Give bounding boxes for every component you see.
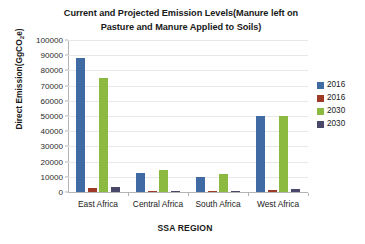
y-axis-tick-mark bbox=[65, 40, 68, 41]
y-axis-title: Direct Emission(GgCO2e) bbox=[14, 4, 24, 154]
x-axis-tick-mark bbox=[248, 193, 249, 196]
y-axis-tick-label: 70000 bbox=[40, 81, 63, 90]
y-axis-tick-mark bbox=[65, 176, 68, 177]
plot-area: 0100002000030000400005000060000700008000… bbox=[68, 40, 308, 193]
y-axis-tick-mark bbox=[65, 161, 68, 162]
x-axis-category-label: Central Africa bbox=[133, 199, 183, 209]
bar bbox=[136, 173, 145, 192]
y-axis-tick-label: 80000 bbox=[40, 66, 63, 75]
x-axis-title: SSA REGION bbox=[60, 223, 310, 233]
bar bbox=[76, 58, 85, 192]
bar bbox=[219, 174, 228, 192]
legend-swatch-icon bbox=[317, 121, 324, 128]
legend-item-label: 2030 bbox=[327, 107, 345, 115]
bar bbox=[231, 191, 240, 192]
legend-item-label: 2016 bbox=[327, 81, 345, 89]
legend-swatch-icon bbox=[317, 95, 324, 102]
y-axis-tick-label: 90000 bbox=[40, 51, 63, 60]
y-axis-tick-label: 60000 bbox=[40, 96, 63, 105]
legend-item-label: 2016 bbox=[327, 94, 345, 102]
chart-legend: 2016201620302030 bbox=[317, 79, 345, 131]
y-axis-tick-mark bbox=[65, 131, 68, 132]
bar-group: West Africa bbox=[256, 40, 300, 192]
y-axis-title-subscript: 2 bbox=[18, 36, 25, 39]
bar bbox=[99, 78, 108, 192]
bar bbox=[148, 191, 157, 192]
legend-item-label: 2030 bbox=[327, 120, 345, 128]
bar bbox=[196, 177, 205, 192]
legend-item[interactable]: 2030 bbox=[317, 118, 345, 131]
bar-group: East Africa bbox=[76, 40, 120, 192]
x-axis-tick-mark bbox=[308, 193, 309, 196]
y-axis-tick-label: 30000 bbox=[40, 142, 63, 151]
legend-item[interactable]: 2030 bbox=[317, 105, 345, 118]
x-axis-category-label: South Africa bbox=[195, 199, 240, 209]
y-axis-tick-mark bbox=[65, 100, 68, 101]
y-axis-tick-mark bbox=[65, 116, 68, 117]
y-axis-tick-label: 50000 bbox=[40, 112, 63, 121]
bar-group: South Africa bbox=[196, 40, 240, 192]
bar-chart: Current and Projected Emission Levels(Ma… bbox=[0, 0, 365, 244]
bar bbox=[159, 170, 168, 192]
y-axis-tick-label: 10000 bbox=[40, 172, 63, 181]
y-axis-tick-mark bbox=[65, 146, 68, 147]
y-axis-title-suffix: e) bbox=[14, 28, 24, 35]
y-axis-tick-label: 40000 bbox=[40, 127, 63, 136]
bar bbox=[291, 189, 300, 192]
y-axis-title-prefix: Direct Emission(GgCO bbox=[14, 39, 24, 129]
x-axis-category-label: East Africa bbox=[78, 199, 118, 209]
legend-swatch-icon bbox=[317, 82, 324, 89]
chart-title-line-2: Pasture and Manure Applied to Soils) bbox=[52, 21, 310, 35]
y-axis-tick-mark bbox=[65, 70, 68, 71]
chart-title: Current and Projected Emission Levels(Ma… bbox=[52, 7, 310, 34]
legend-item[interactable]: 2016 bbox=[317, 79, 345, 92]
bar bbox=[279, 116, 288, 192]
bar bbox=[88, 188, 97, 192]
legend-item[interactable]: 2016 bbox=[317, 92, 345, 105]
y-axis-tick-mark bbox=[65, 192, 68, 193]
x-axis-tick-mark bbox=[188, 193, 189, 196]
bar bbox=[171, 191, 180, 192]
legend-swatch-icon bbox=[317, 108, 324, 115]
y-axis-tick-mark bbox=[65, 85, 68, 86]
y-axis-tick-label: 20000 bbox=[40, 157, 63, 166]
chart-title-line-1: Current and Projected Emission Levels(Ma… bbox=[52, 7, 310, 21]
x-axis-tick-mark bbox=[128, 193, 129, 196]
bar-group: Central Africa bbox=[136, 40, 180, 192]
y-axis-tick-label: 0 bbox=[58, 188, 63, 197]
y-axis-tick-mark bbox=[65, 55, 68, 56]
bar bbox=[208, 191, 217, 192]
bar bbox=[111, 187, 120, 192]
bar bbox=[256, 116, 265, 192]
x-axis-category-label: West Africa bbox=[257, 199, 299, 209]
bar bbox=[268, 190, 277, 192]
y-axis-tick-label: 100000 bbox=[36, 36, 63, 45]
